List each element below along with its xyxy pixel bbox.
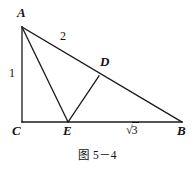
length-label-EB: √3 bbox=[126, 124, 139, 136]
geometry-figure: A B C D E 1 2 √3 图 5－4 bbox=[0, 0, 195, 177]
length-label-AC: 1 bbox=[9, 67, 15, 79]
segment-ED bbox=[68, 76, 99, 122]
vertex-label-B: B bbox=[177, 124, 186, 137]
vertex-label-E: E bbox=[63, 124, 72, 137]
vertex-label-C: C bbox=[12, 124, 21, 137]
segment-AB bbox=[22, 27, 182, 122]
vertex-label-A: A bbox=[17, 6, 26, 19]
length-label-AD: 2 bbox=[60, 30, 66, 42]
vertex-label-D: D bbox=[100, 55, 109, 68]
figure-caption: 图 5－4 bbox=[0, 150, 195, 162]
radicand-value: 3 bbox=[132, 122, 139, 137]
